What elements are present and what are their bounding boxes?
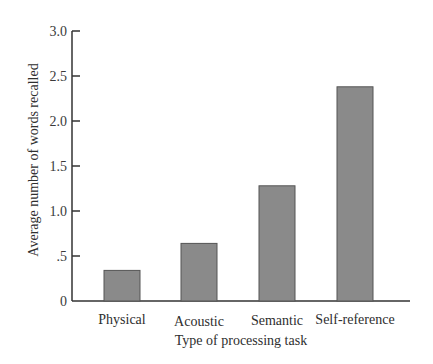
y-axis-title: Average number of words recalled: [26, 63, 41, 256]
y-tick-label: 2.0: [50, 114, 68, 129]
y-axis-ticks: 0.51.01.52.02.53.0: [50, 24, 81, 309]
x-category-label: Self-reference: [315, 312, 394, 327]
y-tick-label: .5: [57, 249, 68, 264]
bar-acoustic: [181, 243, 217, 301]
x-axis-title: Type of processing task: [175, 333, 307, 348]
x-axis-category-labels: PhysicalAcousticSemanticSelf-reference: [98, 312, 394, 329]
bar-self-reference: [337, 87, 373, 301]
bar-physical: [104, 270, 140, 301]
bars-group: [104, 87, 373, 301]
y-tick-label: 1.5: [50, 159, 68, 174]
y-tick-label: 0: [60, 294, 67, 309]
x-category-label: Physical: [98, 312, 146, 327]
y-tick-label: 2.5: [50, 69, 68, 84]
bar-semantic: [259, 186, 295, 301]
x-category-label: Acoustic: [174, 314, 224, 329]
y-tick-label: 3.0: [50, 24, 68, 39]
y-tick-label: 1.0: [50, 204, 68, 219]
x-category-label: Semantic: [251, 313, 303, 328]
bar-chart: 0.51.01.52.02.53.0 PhysicalAcousticSeman…: [0, 0, 433, 364]
